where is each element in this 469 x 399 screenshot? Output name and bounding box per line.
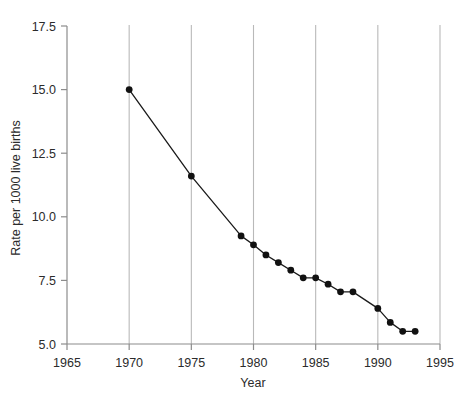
data-point-1975: 1975: 11.6: [188, 173, 195, 180]
chart-container: 5.07.510.012.515.017.5 19651970197519801…: [0, 0, 469, 399]
data-point-1986: 1986: 7.35: [325, 281, 332, 288]
gridlines: [129, 25, 440, 344]
y-axis-ticks: [61, 26, 67, 344]
data-point-1992: 1992: 5.5: [399, 328, 406, 335]
y-tick-label-15.0: 15.0: [32, 83, 56, 97]
data-point-1985: 1985: 7.6: [312, 274, 319, 281]
y-axis-title: Rate per 1000 live births: [9, 120, 23, 256]
x-tick-label-1970: 1970: [115, 356, 143, 370]
data-point-1981: 1981: 8.5: [263, 252, 270, 259]
data-point-1987: 1987: 7.05: [337, 288, 344, 295]
data-point-1984: 1984: 7.6: [300, 274, 307, 281]
x-tick-label-1980: 1980: [240, 356, 268, 370]
y-axis-tick-labels: 5.07.510.012.515.017.5: [32, 20, 56, 352]
x-tick-label-1990: 1990: [364, 356, 392, 370]
data-point-1979: 1979: 9.25: [238, 232, 245, 239]
x-tick-label-1975: 1975: [177, 356, 205, 370]
x-axis-title: Year: [240, 376, 265, 390]
y-tick-label-12.5: 12.5: [32, 147, 56, 161]
series-line-infant-mortality: [129, 90, 415, 332]
data-point-1988: 1988: 7.05: [350, 288, 357, 295]
data-point-1993: 1993: 5.5: [412, 328, 419, 335]
data-point-1970: 1970: 15: [126, 86, 133, 93]
x-axis-tick-labels: 1965197019751980198519901995: [53, 356, 454, 370]
x-tick-label-1995: 1995: [426, 356, 454, 370]
line-chart: 5.07.510.012.515.017.5 19651970197519801…: [0, 0, 469, 399]
data-point-1983: 1983: 7.9: [287, 267, 294, 274]
data-point-1991: 1991: 5.85: [387, 319, 394, 326]
x-tick-label-1965: 1965: [53, 356, 81, 370]
y-tick-label-17.5: 17.5: [32, 20, 56, 34]
y-tick-label-5.0: 5.0: [39, 338, 56, 352]
x-tick-label-1985: 1985: [302, 356, 330, 370]
x-axis-ticks: [67, 344, 440, 350]
data-point-1990: 1990: 6.4: [374, 305, 381, 312]
y-tick-label-10.0: 10.0: [32, 210, 56, 224]
y-tick-label-7.5: 7.5: [39, 274, 56, 288]
series-markers: 1970: 151975: 11.61979: 9.251980: 8.9198…: [126, 86, 419, 334]
data-point-1982: 1982: 8.2: [275, 259, 282, 266]
data-point-1980: 1980: 8.9: [250, 241, 257, 248]
